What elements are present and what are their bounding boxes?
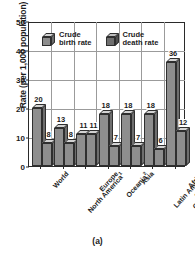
legend-item-death-rate[interactable]: Crude death rate — [106, 27, 159, 51]
bar-value-label: 8 — [46, 131, 51, 139]
x-tickmark-3 — [108, 166, 109, 169]
legend-item-birth-rate[interactable]: Crude birth rate — [42, 27, 92, 51]
cube-icon-birth-rate — [42, 33, 55, 46]
figure-caption: (a) — [0, 236, 195, 246]
bar-death-rate[interactable] — [176, 131, 186, 166]
x-tickmark-2 — [85, 166, 86, 169]
bar-birth-rate[interactable] — [121, 114, 131, 166]
bar-death-rate[interactable] — [42, 143, 52, 166]
y-tick-label-50: 50 — [16, 18, 29, 27]
legend: Crude birth rate Crude death rate — [42, 27, 172, 51]
x-tickmark-6 — [175, 166, 176, 169]
bar-value-label: 18 — [124, 102, 133, 110]
bar-birth-rate[interactable] — [144, 114, 154, 166]
legend-label-death-rate: Crude death rate — [123, 31, 159, 48]
x-axis-label-north-america: North America1 — [84, 170, 125, 214]
bar-birth-rate[interactable] — [166, 62, 176, 166]
bar-value-label: 20 — [34, 96, 43, 104]
bar-value-label: 12 — [178, 119, 187, 127]
bar-death-rate[interactable] — [64, 143, 74, 166]
bar-death-rate[interactable] — [154, 149, 164, 166]
x-tickmark-5 — [152, 166, 153, 169]
bar-value-label: 18 — [101, 102, 110, 110]
x-axis-labels: WorldNorth America1EuropeOceania2AsiaLat… — [28, 170, 185, 232]
bar-value-label: 6 — [158, 137, 163, 145]
bar-birth-rate[interactable] — [76, 134, 86, 166]
y-tick-label-10: 10 — [16, 134, 29, 143]
bar-death-rate[interactable] — [109, 146, 119, 166]
bar-death-rate[interactable] — [131, 146, 141, 166]
bar-value-label: 11 — [79, 122, 88, 130]
legend-label-birth-rate: Crude birth rate — [59, 31, 92, 48]
bar-value-label: 7 — [136, 134, 141, 142]
y-tick-label-20: 20 — [16, 105, 29, 114]
figure-bar-chart: Rate (per 1,000 population) 01020304050 … — [0, 0, 195, 258]
bar-birth-rate[interactable] — [32, 108, 42, 166]
x-tickmark-0 — [40, 166, 41, 169]
y-tick-label-30: 30 — [16, 76, 29, 85]
bar-death-rate[interactable] — [86, 134, 96, 166]
cube-icon-death-rate — [106, 33, 119, 46]
x-tickmark-4 — [130, 166, 131, 169]
bar-value-label: 18 — [146, 102, 155, 110]
x-tickmark-1 — [63, 166, 64, 169]
bar-value-label: 8 — [68, 131, 73, 139]
x-axis-label-world: World — [52, 170, 71, 190]
bar-birth-rate[interactable] — [54, 128, 64, 166]
bar-value-label: 13 — [56, 116, 65, 124]
bar-birth-rate[interactable] — [99, 114, 109, 166]
y-tick-label-40: 40 — [16, 47, 29, 56]
bar-value-label: 7 — [113, 134, 118, 142]
